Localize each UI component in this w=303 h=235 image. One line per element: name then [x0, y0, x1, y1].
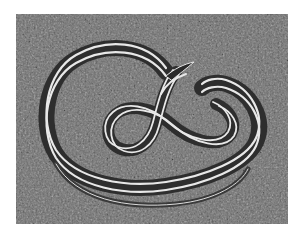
snake-photo: Black-and-white photograph of a striped … [16, 14, 288, 224]
snake-photo-svg [16, 14, 288, 224]
